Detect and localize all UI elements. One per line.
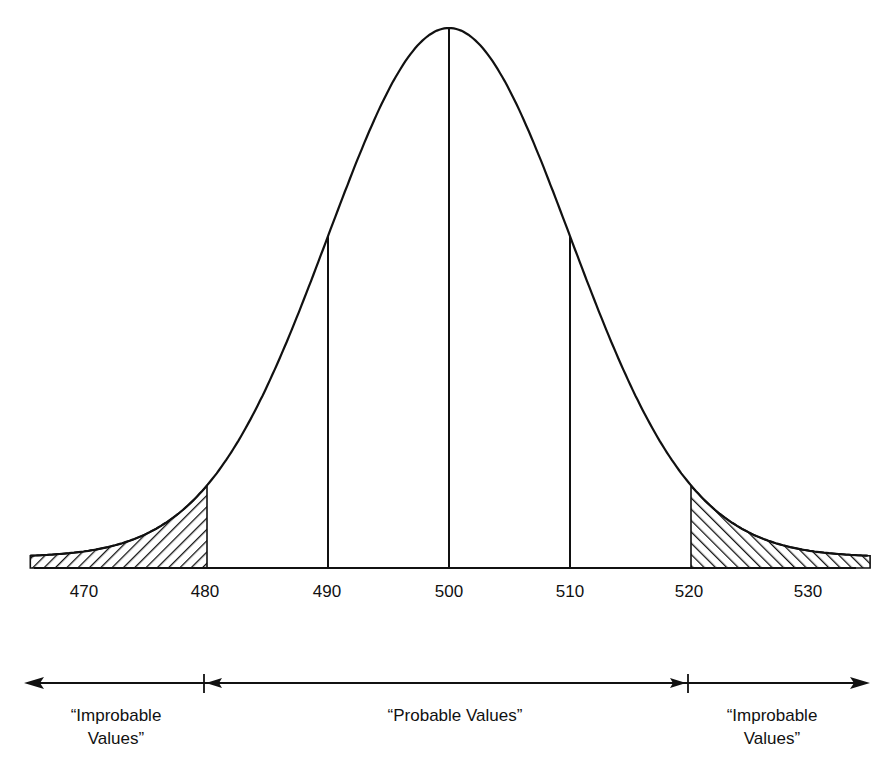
region-label-improbable-right: “Improbable Values” bbox=[727, 704, 818, 750]
range-arrows bbox=[24, 674, 870, 693]
tick-label-520: 520 bbox=[675, 582, 703, 602]
tick-label-470: 470 bbox=[70, 582, 98, 602]
right-tail-shading bbox=[691, 485, 870, 568]
region-label-improbable-left: “Improbable Values” bbox=[71, 704, 162, 750]
tick-label-480: 480 bbox=[191, 582, 219, 602]
normal-distribution-chart bbox=[0, 0, 894, 770]
left-tail-shading bbox=[30, 485, 207, 568]
reference-lines bbox=[328, 28, 570, 568]
tick-label-500: 500 bbox=[435, 582, 463, 602]
tick-label-530: 530 bbox=[794, 582, 822, 602]
tick-label-510: 510 bbox=[556, 582, 584, 602]
region-label-probable: “Probable Values” bbox=[388, 704, 523, 727]
tick-label-490: 490 bbox=[313, 582, 341, 602]
